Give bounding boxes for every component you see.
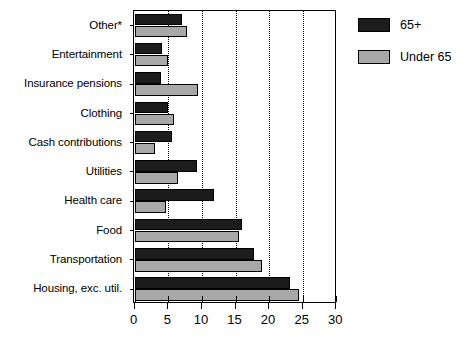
- category-tick: [130, 113, 134, 114]
- plot-area: [133, 10, 336, 303]
- x-axis-ticks: [133, 303, 336, 311]
- bar-under-65-transportation: [135, 260, 263, 272]
- legend-entry-65-: 65+: [358, 18, 421, 32]
- category-axis-labels: Other*EntertainmentInsurance pensionsClo…: [0, 10, 128, 303]
- x-tick-inner-20: [269, 296, 270, 302]
- gridline-25: [303, 11, 304, 302]
- category-tick: [130, 201, 134, 202]
- category-label-utilities: Utilities: [86, 165, 122, 177]
- legend-entry-under-65: Under 65: [358, 50, 451, 64]
- x-axis-tick-labels: 051015202530: [133, 312, 336, 332]
- bar-under-65-utilities: [135, 172, 178, 184]
- category-label-housing-exc-util-: Housing, exc. util.: [33, 282, 122, 294]
- category-label-insurance-pensions: Insurance pensions: [24, 77, 122, 89]
- bar-65--cash-contributions: [135, 131, 172, 143]
- bar-65--food: [135, 219, 243, 231]
- bar-65--utilities: [135, 160, 197, 172]
- x-tick-label-5: 5: [164, 312, 171, 327]
- x-tick-inner-5: [168, 296, 169, 302]
- x-tick-15: [235, 303, 236, 309]
- x-tick-5: [167, 303, 168, 309]
- bar-65--entertainment: [135, 43, 163, 55]
- x-tick-label-15: 15: [227, 312, 241, 327]
- x-tick-inner-10: [202, 296, 203, 302]
- x-tick-30: [335, 303, 336, 309]
- bar-65--housing-exc-util-: [135, 277, 290, 289]
- bar-65--other-: [135, 14, 183, 26]
- legend-swatch-65plus: [358, 18, 390, 32]
- bar-65--clothing: [135, 102, 168, 114]
- gridline-20: [269, 11, 270, 302]
- bar-chart: Other*EntertainmentInsurance pensionsClo…: [0, 0, 465, 337]
- bar-65--health-care: [135, 189, 214, 201]
- x-tick-0: [134, 303, 135, 309]
- category-label-clothing: Clothing: [81, 107, 122, 119]
- legend-swatch-under65: [358, 50, 390, 64]
- category-tick: [130, 230, 134, 231]
- bar-65--insurance-pensions: [135, 72, 161, 84]
- category-label-health-care: Health care: [64, 194, 122, 206]
- category-tick: [130, 54, 134, 55]
- x-tick-20: [268, 303, 269, 309]
- category-tick: [130, 25, 134, 26]
- x-tick-inner-25: [303, 296, 304, 302]
- category-label-entertainment: Entertainment: [52, 48, 122, 60]
- bar-under-65-housing-exc-util-: [135, 289, 300, 301]
- x-tick-label-10: 10: [194, 312, 208, 327]
- legend-label: Under 65: [400, 50, 451, 64]
- x-tick-25: [302, 303, 303, 309]
- category-label-food: Food: [96, 224, 122, 236]
- bar-under-65-clothing: [135, 114, 174, 126]
- category-tick: [130, 171, 134, 172]
- bar-under-65-health-care: [135, 201, 166, 213]
- category-label-other-: Other*: [89, 19, 122, 31]
- category-tick: [130, 259, 134, 260]
- x-tick-label-25: 25: [294, 312, 308, 327]
- x-tick-10: [201, 303, 202, 309]
- x-tick-label-30: 30: [328, 312, 342, 327]
- category-label-cash-contributions: Cash contributions: [29, 136, 122, 148]
- category-label-transportation: Transportation: [50, 253, 122, 265]
- x-tick-inner-15: [236, 296, 237, 302]
- x-tick-label-0: 0: [130, 312, 137, 327]
- bar-65--transportation: [135, 248, 254, 260]
- bar-under-65-other-: [135, 26, 187, 38]
- x-tick-label-20: 20: [261, 312, 275, 327]
- bar-under-65-cash-contributions: [135, 143, 155, 155]
- legend-label: 65+: [400, 18, 421, 32]
- category-tick: [130, 84, 134, 85]
- bar-under-65-insurance-pensions: [135, 84, 198, 96]
- bar-under-65-entertainment: [135, 55, 169, 67]
- category-tick: [130, 289, 134, 290]
- bar-under-65-food: [135, 231, 239, 243]
- x-tick-inner-0: [135, 296, 136, 302]
- category-tick: [130, 142, 134, 143]
- x-tick-inner-30: [336, 296, 337, 302]
